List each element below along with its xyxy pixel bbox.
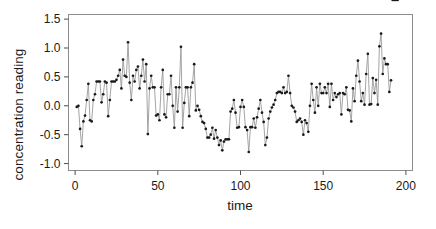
x-tick-label: 50 bbox=[151, 179, 165, 193]
x-tick-label: 0 bbox=[72, 179, 79, 193]
y-tick-label: 1.5 bbox=[44, 12, 61, 26]
chart-plot: 050100150200-1.0-0.50.00.51.01.5 bbox=[0, 0, 436, 229]
y-tick-label: 1.0 bbox=[44, 41, 61, 55]
axis-ticks: 050100150200-1.0-0.50.00.51.01.5 bbox=[40, 12, 416, 192]
y-tick-label: 0.0 bbox=[44, 99, 61, 113]
x-tick-label: 100 bbox=[230, 179, 250, 193]
x-tick-label: 150 bbox=[313, 179, 333, 193]
y-tick-label: -1.0 bbox=[40, 157, 61, 171]
data-series bbox=[75, 0, 399, 153]
y-tick-label: 0.5 bbox=[44, 70, 61, 84]
y-tick-label: -0.5 bbox=[40, 128, 61, 142]
x-tick-label: 200 bbox=[396, 179, 416, 193]
figure-container: concentration reading time 050100150200-… bbox=[0, 0, 436, 229]
